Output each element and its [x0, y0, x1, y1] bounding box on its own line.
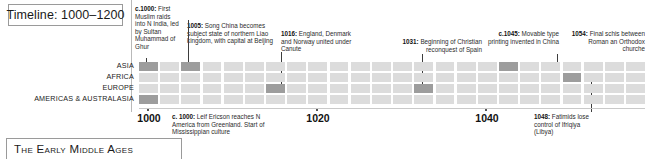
grid-cell [266, 95, 285, 104]
grid-cell [457, 73, 476, 82]
grid-cell [605, 62, 624, 71]
grid-cell [330, 62, 349, 71]
grid-cell [478, 95, 497, 104]
event-year-e1000-india: c.1000: [135, 5, 156, 12]
event-annotation-e1016-canute: 1016: England, Denmark and Norway united… [281, 30, 361, 53]
grid-cell [160, 62, 179, 71]
grid-cell [139, 84, 158, 93]
grid-cell [499, 95, 518, 104]
event-text-e1054-schism: Final schis between Roman an Orthodox ch… [588, 30, 645, 52]
grid-cell [266, 73, 285, 82]
grid-cell [520, 73, 539, 82]
grid-cell [203, 62, 222, 71]
grid-cell [584, 62, 603, 71]
grid-cell [478, 73, 497, 82]
grid-cell [245, 84, 264, 93]
timeline-title-box: Timeline: 1000–1200 [8, 4, 123, 26]
grid-cell [308, 95, 327, 104]
grid-cell-highlighted [139, 95, 158, 104]
grid-cell-highlighted [499, 62, 518, 71]
axis-label-1040: 1040 [475, 112, 498, 124]
event-annotation-e1000-india: c.1000: First Muslim raids into N India,… [135, 5, 179, 51]
grid-cell-highlighted [181, 62, 200, 71]
grid-cell [520, 84, 539, 93]
grid-cell [245, 73, 264, 82]
grid-cell [584, 95, 603, 104]
grid-cell [457, 62, 476, 71]
event-text-e1031-spain: Beginning of Christian reconquest of Spa… [420, 38, 482, 53]
grid-cell [287, 84, 306, 93]
grid-cell [393, 95, 412, 104]
event-annotation-e1005-song: 1005: Song China becomes subject state o… [187, 22, 279, 45]
grid-cell [330, 84, 349, 93]
grid-cell [181, 84, 200, 93]
grid-cell [160, 84, 179, 93]
footer-panel: The Early Middle Ages [6, 138, 182, 159]
grid-cell [563, 95, 582, 104]
event-annotation-e1000-ericson: c. 1000: Leif Ericson reaches N America … [172, 113, 284, 136]
grid-cell [224, 62, 243, 71]
grid-cell [436, 95, 455, 104]
grid-cell [626, 95, 645, 104]
event-annotation-e1031-spain: 1031: Beginning of Christian reconquest … [375, 38, 482, 53]
grid-cell-highlighted [414, 84, 433, 93]
grid-cell [372, 95, 391, 104]
page-title: Timeline: 1000–1200 [6, 8, 124, 22]
grid-cell [330, 95, 349, 104]
event-year-e1045-printing: c.1045: [498, 30, 519, 37]
grid-cell [372, 73, 391, 82]
event-year-e1048-fatimids: 1048: [534, 113, 550, 120]
grid-cell [224, 73, 243, 82]
grid-cell [605, 95, 624, 104]
row-label-europe: EUROPE [0, 83, 134, 92]
grid-cell [203, 84, 222, 93]
grid-cell [245, 62, 264, 71]
grid-cell [245, 95, 264, 104]
grid-cell [478, 62, 497, 71]
grid-cell [541, 84, 560, 93]
grid-cell [203, 73, 222, 82]
grid-cell [563, 84, 582, 93]
row-label-americas: AMERICAS & AUSTRALASIA [0, 94, 134, 103]
grid-cell [414, 73, 433, 82]
grid-cell [139, 73, 158, 82]
event-annotation-e1054-schism: 1054: Final schis between Roman an Ortho… [565, 30, 645, 53]
grid-cell [520, 62, 539, 71]
event-year-e1054-schism: 1054: [572, 30, 588, 37]
grid-cell [372, 62, 391, 71]
grid-cell [393, 84, 412, 93]
grid-cell [351, 73, 370, 82]
grid-cell [584, 84, 603, 93]
event-year-e1016-canute: 1016: [281, 30, 297, 37]
grid-cell [605, 84, 624, 93]
grid-cell [203, 95, 222, 104]
grid-cell [393, 62, 412, 71]
grid-cell [414, 95, 433, 104]
grid-cell [520, 95, 539, 104]
grid-cell [499, 84, 518, 93]
grid-cell [308, 84, 327, 93]
grid-cell-highlighted [563, 73, 582, 82]
event-year-e1000-ericson: c. 1000: [172, 113, 195, 120]
grid-cell [351, 62, 370, 71]
grid-cell-highlighted [266, 84, 285, 93]
grid-cell [414, 62, 433, 71]
grid-cell [308, 73, 327, 82]
grid-cell [584, 73, 603, 82]
axis-label-1000: 1000 [137, 112, 160, 124]
event-annotation-e1045-printing: c.1045: Movable type printing invented i… [483, 30, 559, 45]
grid-cell [436, 73, 455, 82]
grid-cell [436, 84, 455, 93]
grid-cell [626, 62, 645, 71]
row-label-africa: AFRICA [0, 72, 134, 81]
grid-cell [330, 73, 349, 82]
grid-cell [287, 95, 306, 104]
grid-cell [478, 84, 497, 93]
grid-cell [224, 84, 243, 93]
grid-cell [351, 95, 370, 104]
grid-cell [541, 95, 560, 104]
grid-cell [266, 62, 285, 71]
timeline-grid [139, 62, 645, 107]
grid-cell [541, 73, 560, 82]
grid-cell [224, 95, 243, 104]
